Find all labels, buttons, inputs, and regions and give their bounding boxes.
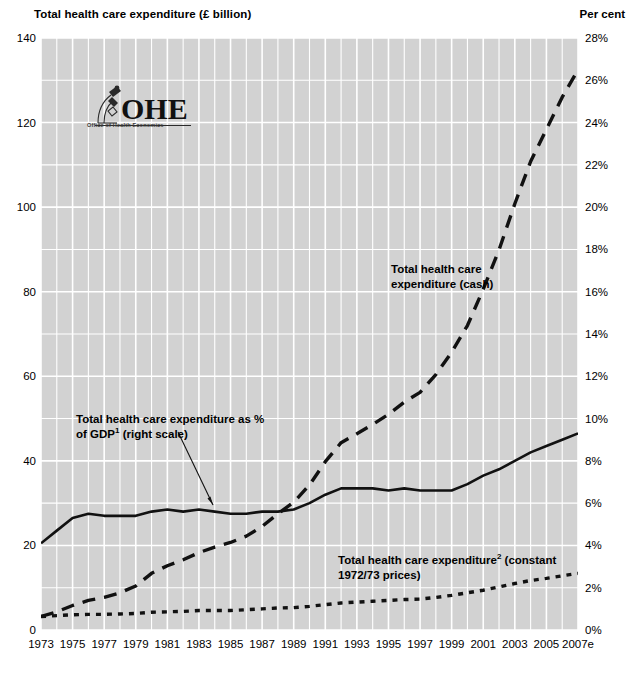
x-tick-label: 2005 [534,638,560,650]
x-tick-label: 2007e [562,638,594,650]
left-tick-label: 60 [0,370,36,382]
right-tick-label: 14% [585,328,629,340]
annotation-gdp-share: Total health care expenditure as % of GD… [76,412,264,442]
x-tick-label: 1989 [281,638,307,650]
plot-area: OHE Office of Health Economics Total hea… [41,38,578,630]
x-tick-label: 1979 [123,638,149,650]
x-tick-label: 1987 [249,638,275,650]
left-tick-label: 100 [0,201,36,213]
ohe-logo-tagline: Office of Health Economics [87,122,164,128]
left-tick-label: 140 [0,32,36,44]
right-tick-label: 6% [585,497,629,509]
right-tick-label: 10% [585,413,629,425]
annotation-constant-line2: 1972/73 prices) [338,569,420,581]
x-tick-label: 1975 [60,638,86,650]
right-tick-label: 4% [585,539,629,551]
x-tick-label: 1997 [407,638,433,650]
right-tick-label: 20% [585,201,629,213]
x-tick-label: 2001 [470,638,496,650]
left-tick-label: 20 [0,539,36,551]
right-tick-label: 12% [585,370,629,382]
right-tick-label: 18% [585,243,629,255]
x-tick-label: 1981 [155,638,181,650]
annotation-cash-line1: Total health care [391,263,482,275]
svg-text:OHE: OHE [121,92,188,125]
right-tick-label: 8% [585,455,629,467]
chart-figure: Total health care expenditure (£ billion… [0,0,631,673]
annotation-gdp-line2-b: (right scale) [119,428,187,440]
left-tick-label: 80 [0,286,36,298]
x-tick-label: 1983 [186,638,212,650]
right-axis-title: Per cent [580,8,625,20]
annotation-gdp-line2-a: of GDP [76,428,115,440]
left-tick-label: 0 [0,624,36,636]
left-tick-label: 120 [0,117,36,129]
right-tick-label: 16% [585,286,629,298]
x-tick-label: 1985 [218,638,244,650]
x-tick-label: 1991 [312,638,338,650]
annotation-cash-line2: expenditure (cash) [391,278,493,290]
x-tick-label: 1995 [376,638,402,650]
left-axis-title: Total health care expenditure (£ billion… [34,8,251,20]
annotation-constant-prices: Total health care expenditure2 (constant… [338,553,556,583]
x-tick-label: 2003 [502,638,528,650]
right-tick-label: 24% [585,117,629,129]
right-tick-label: 22% [585,159,629,171]
annotation-gdp-line1: Total health care expenditure as % [76,413,264,425]
right-tick-label: 26% [585,74,629,86]
right-tick-label: 0% [585,624,629,636]
x-tick-label: 1973 [28,638,54,650]
right-tick-label: 28% [585,32,629,44]
x-tick-label: 1993 [344,638,370,650]
right-tick-label: 2% [585,582,629,594]
x-tick-label: 1977 [91,638,117,650]
left-tick-label: 40 [0,455,36,467]
annotation-cash: Total health care expenditure (cash) [391,262,493,292]
x-tick-label: 1999 [439,638,465,650]
annotation-constant-line1-b: (constant [501,554,556,566]
annotation-constant-line1-a: Total health care expenditure [338,554,497,566]
